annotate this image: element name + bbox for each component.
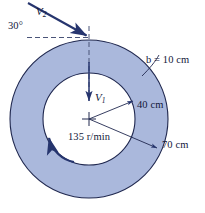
annulus-shape [0,0,205,213]
diagram-canvas [0,0,205,213]
rotation-speed-label: 135 r/min [68,132,110,143]
annulus-fill [0,0,205,213]
inlet-angle-label: 30° [8,21,23,32]
impeller-diagram: 30° V2 b = 10 cm V1 40 cm 70 cm 135 r/mi… [0,0,205,213]
v1-symbol: V [95,91,102,103]
v1-label: V1 [95,92,106,105]
v1-subscript: 1 [102,96,106,105]
outer-radius-label: 70 cm [162,140,188,151]
v2-symbol: V [36,5,43,17]
blade-width-label: b = 10 cm [146,55,189,66]
v2-label: V2 [36,6,47,19]
inner-radius-label: 40 cm [137,100,163,111]
v2-subscript: 2 [43,10,47,19]
